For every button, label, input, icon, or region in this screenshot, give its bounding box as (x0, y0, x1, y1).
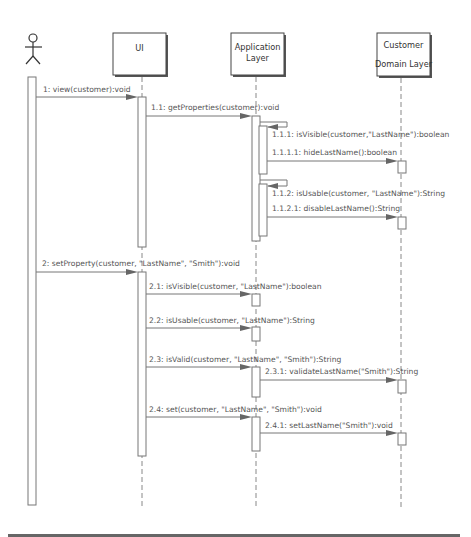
participant-customer-label-line2: Domain Layer (375, 59, 433, 69)
message-1: 1: view(customer):void (36, 85, 138, 100)
activation-customer-setlastname (398, 433, 406, 445)
message-2-2: 2.2: isUsable(customer, "LastName"):Stri… (146, 316, 315, 331)
participant-app-label-line2: Layer (246, 53, 269, 63)
activation-app-2-1 (252, 294, 260, 306)
activation-customer-hide (398, 161, 406, 173)
message-2-4: 2.4: set(customer, "LastName", "Smith"):… (146, 405, 322, 420)
activation-actor (28, 77, 36, 505)
activation-app-isusable (259, 184, 267, 236)
participant-ui-label: UI (135, 43, 143, 53)
message-2-4-1: 2.4.1: setLastName("Smith"):void (260, 421, 398, 436)
svg-text:1.1: getProperties(customer):v: 1.1: getProperties(customer):void (151, 103, 279, 112)
svg-text:2.4.1: setLastName("Smith"):vo: 2.4.1: setLastName("Smith"):void (265, 421, 393, 430)
message-1-1-2: 1.1.2: isUsable(customer, "LastName"):St… (260, 180, 445, 198)
svg-text:1.1.2: isUsable(customer, "Las: 1.1.2: isUsable(customer, "LastName"):St… (272, 189, 445, 198)
activation-app-isvisible (259, 126, 267, 174)
participant-ui: UI (113, 33, 168, 77)
activation-ui-2 (138, 272, 146, 456)
svg-text:1: view(customer):void: 1: view(customer):void (43, 85, 131, 94)
svg-text:2.3.1: validateLastName("Smith: 2.3.1: validateLastName("Smith"):String (265, 367, 418, 376)
activation-app-2-4 (252, 417, 260, 451)
svg-text:2.2: isUsable(customer, "LastN: 2.2: isUsable(customer, "LastName"):Stri… (149, 316, 315, 325)
message-1-1-1-1: 1.1.1.1: hideLastName():boolean (267, 148, 398, 164)
message-2-3-1: 2.3.1: validateLastName("Smith"):String (260, 367, 418, 383)
participant-app-label-line1: Application (235, 42, 281, 52)
actor-icon (25, 34, 42, 64)
activation-ui-1 (138, 97, 146, 247)
svg-text:2.1: isVisible(customer, "Last: 2.1: isVisible(customer, "LastName"):boo… (149, 282, 322, 291)
message-1-1-1: 1.1.1: isVisible(customer,"LastName"):bo… (260, 122, 450, 139)
svg-text:1.1.1: isVisible(customer,"Las: 1.1.1: isVisible(customer,"LastName"):bo… (272, 130, 450, 139)
svg-text:1.1.2.1: disableLastName():Str: 1.1.2.1: disableLastName():String (272, 204, 400, 213)
svg-text:2.3: isValid(customer, "LastNa: 2.3: isValid(customer, "LastName", "Smit… (149, 355, 341, 364)
svg-text:2: setProperty(customer, "Last: 2: setProperty(customer, "LastName", "Sm… (42, 259, 240, 268)
svg-text:2.4: set(customer, "LastName",: 2.4: set(customer, "LastName", "Smith"):… (149, 405, 322, 414)
activation-app-2-3 (252, 367, 260, 397)
activation-customer-disable (398, 217, 406, 229)
participant-application-layer: Application Layer (231, 33, 286, 77)
activation-app-2-2 (252, 327, 260, 341)
participant-customer-label-line1: Customer (384, 40, 424, 50)
participant-customer-domain-layer: Customer Domain Layer (375, 33, 433, 78)
message-1-1-2-1: 1.1.2.1: disableLastName():String (267, 204, 400, 220)
message-2-1: 2.1: isVisible(customer, "LastName"):boo… (146, 282, 322, 297)
svg-text:1.1.1.1: hideLastName():boolea: 1.1.1.1: hideLastName():boolean (272, 148, 397, 157)
activation-customer-validate (398, 380, 406, 393)
